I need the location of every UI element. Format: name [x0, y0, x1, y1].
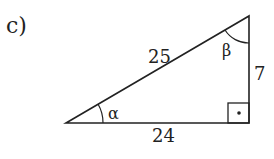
hypotenuse-label: 25 — [148, 46, 171, 67]
alpha-arc — [98, 104, 103, 123]
alpha-label: α — [108, 104, 119, 123]
beta-label: β — [222, 41, 231, 60]
adjacent-label: 24 — [152, 125, 175, 146]
right-angle-dot — [237, 111, 241, 115]
triangle-diagram: c) 25 24 7 α β — [0, 0, 274, 159]
opposite-label: 7 — [254, 63, 265, 84]
part-label: c) — [6, 13, 27, 38]
right-triangle — [66, 16, 249, 123]
